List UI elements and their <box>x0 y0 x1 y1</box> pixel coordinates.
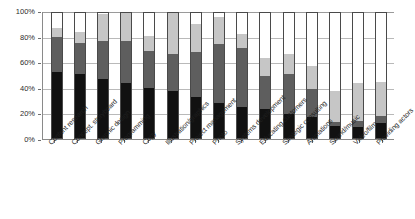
bar-slot <box>161 12 184 139</box>
bar-segment-dark-gray <box>168 54 178 90</box>
bar-segment-light-gray <box>52 28 62 37</box>
bar-segment-light-gray <box>214 17 224 45</box>
bar-segment-light-gray <box>191 24 201 52</box>
y-axis-tick-mark <box>38 89 41 90</box>
bar-segment-dark-gray <box>52 37 62 72</box>
bar-slot <box>45 12 68 139</box>
bar-segment-light-gray <box>307 66 317 90</box>
bar-segment-white <box>330 13 340 91</box>
bar-segment-dark-gray <box>214 44 224 103</box>
x-axis-labels: Content researchConcept. storyboardGraph… <box>42 141 394 219</box>
bar-segment-light-gray <box>260 58 270 76</box>
y-axis-tick-label: 60% <box>20 59 35 67</box>
bar-segment-dark-gray <box>144 51 154 89</box>
y-axis-tick-label: 20% <box>20 110 35 118</box>
bar-providing-actors[interactable] <box>375 12 387 139</box>
y-axis-tick-mark <box>38 114 41 115</box>
y-axis-tick-label: 40% <box>20 85 35 93</box>
bar-systems-development[interactable] <box>236 12 248 139</box>
bar-segment-white <box>376 13 386 82</box>
bar-segment-dark-gray <box>376 116 386 124</box>
y-axis: 0%20%40%60%80%100% <box>0 12 38 140</box>
bar-content-research[interactable] <box>51 12 63 139</box>
bar-segment-white <box>307 13 317 66</box>
y-axis-tick-label: 100% <box>16 8 35 16</box>
bar-segment-white <box>260 13 270 58</box>
bar-segment-light-gray <box>376 82 386 116</box>
y-axis-tick-mark <box>38 38 41 39</box>
y-axis-tick-mark <box>38 140 41 141</box>
bar-segment-white <box>284 13 294 54</box>
bar-segment-dark-gray <box>121 41 131 84</box>
bar-segment-light-gray <box>121 13 131 41</box>
bar-segment-light-gray <box>168 13 178 54</box>
bar-segment-light-gray <box>75 32 85 43</box>
bar-segment-light-gray <box>330 91 340 122</box>
bar-slot <box>231 12 254 139</box>
y-axis-tick-label: 0% <box>24 136 35 144</box>
bar-segment-light-gray <box>237 34 247 48</box>
bar-segment-white <box>144 13 154 36</box>
bar-segment-dark-gray <box>98 41 108 80</box>
bar-segment-light-gray <box>98 14 108 40</box>
bar-segment-white <box>52 13 62 28</box>
bar-segment-light-gray <box>284 54 294 74</box>
bar-segment-white <box>353 13 363 83</box>
bar-segment-dark-gray <box>191 52 201 97</box>
y-axis-tick-label: 80% <box>20 34 35 42</box>
bar-segment-white <box>191 13 201 24</box>
bar-segment-light-gray <box>144 36 154 51</box>
bar-segment-dark-gray <box>237 48 247 107</box>
bar-illustration-graphics[interactable] <box>167 12 179 139</box>
bar-segment-dark-gray <box>75 43 85 74</box>
y-axis-tick-mark <box>38 12 41 13</box>
y-axis-tick-mark <box>38 63 41 64</box>
bar-segment-white <box>75 13 85 32</box>
bar-segment-white <box>237 13 247 34</box>
